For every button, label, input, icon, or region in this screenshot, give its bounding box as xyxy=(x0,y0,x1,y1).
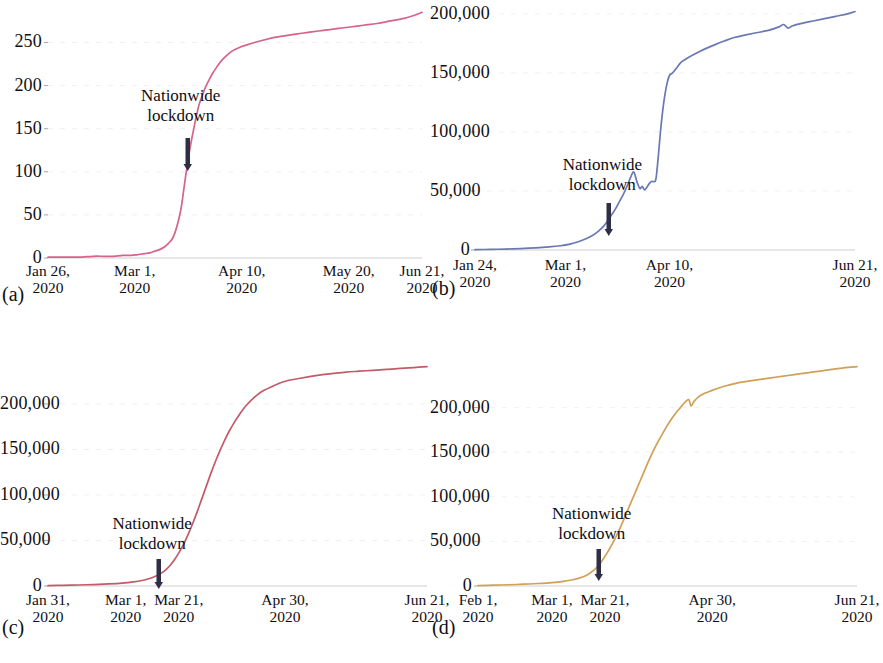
x-axis-tick-label: Jun 21,2020 xyxy=(802,591,883,625)
x-tick-year: 2020 xyxy=(802,608,883,625)
chart-panel-b: 050,000100,000150,000200,000Jan 24,2020M… xyxy=(430,0,859,331)
lockdown-annotation-line1: Nationwide xyxy=(141,86,220,105)
x-tick-date: Jun 21, xyxy=(835,591,880,608)
y-axis-tick-label: 50,000 xyxy=(0,530,42,548)
panel-letter-c: (c) xyxy=(2,617,24,637)
x-tick-year: 2020 xyxy=(510,273,620,290)
panel-letter-a: (a) xyxy=(2,284,24,304)
panel-letter-d: (d) xyxy=(432,617,455,637)
panel-letter-b: (b) xyxy=(432,278,455,298)
lockdown-annotation-line2: lockdown xyxy=(106,106,256,126)
x-tick-year: 2020 xyxy=(550,608,660,625)
lockdown-annotation: Nationwidelockdown xyxy=(527,155,677,195)
x-tick-date: Mar 21, xyxy=(580,591,629,608)
x-tick-date: Jan 26, xyxy=(26,262,70,279)
x-axis-tick-label: Apr 10,2020 xyxy=(615,256,725,290)
y-axis-tick-label: 50 xyxy=(0,205,42,223)
data-series-line xyxy=(475,12,855,250)
x-axis-tick-label: Jun 21,2020 xyxy=(800,256,883,290)
x-tick-year: 2020 xyxy=(124,608,234,625)
lockdown-down-arrow-icon xyxy=(180,138,196,171)
x-tick-date: Jan 31, xyxy=(26,591,70,608)
x-tick-year: 2020 xyxy=(230,608,340,625)
lockdown-down-arrow-icon xyxy=(151,559,167,589)
x-tick-year: 2020 xyxy=(187,279,297,296)
y-axis-tick-label: 150 xyxy=(0,119,42,137)
x-tick-date: Mar 1, xyxy=(545,256,586,273)
x-axis-tick-label: Mar 21,2020 xyxy=(124,591,234,625)
x-tick-year: 2020 xyxy=(657,608,767,625)
x-tick-date: Apr 30, xyxy=(261,591,308,608)
x-axis-tick-label: Apr 10,2020 xyxy=(187,262,297,296)
x-axis-tick-label: Apr 30,2020 xyxy=(230,591,340,625)
x-tick-date: Feb 1, xyxy=(459,591,498,608)
x-tick-year: 2020 xyxy=(80,279,190,296)
chart-panel-d: 050,000100,000150,000200,000Feb 1,2020Ma… xyxy=(430,331,859,662)
y-axis-tick-label: 100 xyxy=(0,162,42,180)
y-axis-tick-label: 150,000 xyxy=(430,442,472,460)
y-axis-tick-label: 250 xyxy=(0,32,42,50)
x-tick-date: Apr 30, xyxy=(689,591,736,608)
lockdown-annotation: Nationwidelockdown xyxy=(106,86,256,126)
y-axis-tick-label: 200,000 xyxy=(0,394,42,412)
x-tick-date: Jan 24, xyxy=(453,256,497,273)
y-axis-tick-label: 50,000 xyxy=(430,531,472,549)
x-axis-tick-label: Mar 1,2020 xyxy=(510,256,620,290)
y-axis-tick-label: 100,000 xyxy=(430,487,472,505)
x-axis-tick-label: Apr 30,2020 xyxy=(657,591,767,625)
x-tick-date: Mar 21, xyxy=(154,591,203,608)
x-tick-date: Apr 10, xyxy=(646,256,693,273)
x-tick-year: 2020 xyxy=(800,273,883,290)
y-axis-tick-label: 200,000 xyxy=(430,4,470,22)
lockdown-annotation-line1: Nationwide xyxy=(563,155,642,174)
x-axis-tick-label: Mar 1,2020 xyxy=(80,262,190,296)
y-axis-tick-label: 100,000 xyxy=(0,485,42,503)
y-axis-tick-label: 200,000 xyxy=(430,398,472,416)
x-tick-date: Apr 10, xyxy=(218,262,265,279)
lockdown-annotation-line2: lockdown xyxy=(77,534,227,554)
x-tick-date: Jun 21, xyxy=(833,256,878,273)
y-axis-tick-label: 50,000 xyxy=(430,181,470,199)
chart-panel-c: 050,000100,000150,000200,000Jan 31,2020M… xyxy=(0,331,429,662)
lockdown-down-arrow-icon xyxy=(591,549,607,581)
y-axis-tick-label: 150,000 xyxy=(0,439,42,457)
data-series-line xyxy=(478,367,857,586)
lockdown-annotation-line1: Nationwide xyxy=(113,514,192,533)
y-axis-tick-label: 200 xyxy=(0,76,42,94)
chart-panel-a: 050100150200250Jan 26,2020Mar 1,2020Apr … xyxy=(0,0,429,331)
x-tick-date: Mar 1, xyxy=(114,262,155,279)
y-axis-tick-label: 150,000 xyxy=(430,63,470,81)
lockdown-annotation-line2: lockdown xyxy=(517,524,667,544)
lockdown-annotation: Nationwidelockdown xyxy=(517,504,667,544)
data-series-line xyxy=(48,12,422,257)
lockdown-down-arrow-icon xyxy=(601,203,617,236)
lockdown-annotation: Nationwidelockdown xyxy=(77,514,227,554)
lockdown-annotation-line1: Nationwide xyxy=(552,504,631,523)
x-tick-year: 2020 xyxy=(615,273,725,290)
x-axis-tick-label: Mar 21,2020 xyxy=(550,591,660,625)
lockdown-annotation-line2: lockdown xyxy=(527,175,677,195)
y-axis-tick-label: 100,000 xyxy=(430,122,470,140)
